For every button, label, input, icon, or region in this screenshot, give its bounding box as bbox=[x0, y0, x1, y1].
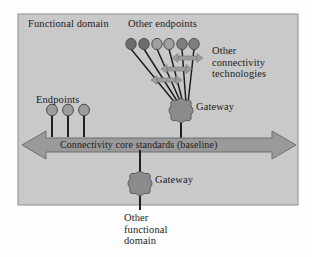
other-endpoint-node-6 bbox=[189, 38, 199, 49]
other-endpoint-node-1 bbox=[126, 38, 136, 49]
label-endpoints: Endpoints bbox=[36, 94, 80, 106]
endpoint-nodes bbox=[47, 104, 90, 116]
label-connectivity-core-standards: Connectivity core standards (baseline) bbox=[60, 139, 217, 151]
endpoint-node-1 bbox=[47, 104, 58, 116]
other-endpoint-node-5 bbox=[177, 38, 187, 49]
other-endpoint-node-3 bbox=[152, 38, 162, 49]
diagram-canvas: Functional domain Other endpoints Other … bbox=[0, 0, 312, 257]
endpoint-node-2 bbox=[63, 104, 74, 116]
endpoint-node-3 bbox=[79, 104, 90, 116]
other-endpoint-node-4 bbox=[164, 38, 174, 49]
label-gateway-top: Gateway bbox=[196, 101, 234, 113]
label-functional-domain: Functional domain bbox=[28, 18, 109, 30]
label-other-functional-domain: Other functional domain bbox=[124, 212, 168, 247]
label-other-endpoints: Other endpoints bbox=[128, 18, 197, 30]
other-endpoint-node-2 bbox=[139, 38, 149, 49]
gateway-top-shape bbox=[169, 99, 193, 123]
label-gateway-bottom: Gateway bbox=[155, 174, 193, 186]
label-other-connectivity-technologies: Other connectivity technologies bbox=[212, 45, 266, 80]
gateway-bottom-shape bbox=[128, 172, 152, 196]
